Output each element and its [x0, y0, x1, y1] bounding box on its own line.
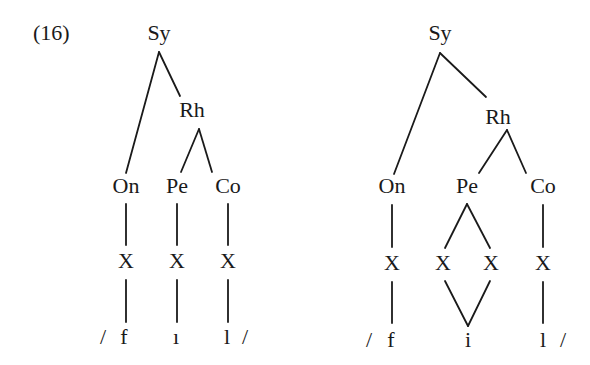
right-x-coda: X: [535, 250, 551, 275]
left-close-slash: /: [242, 324, 249, 349]
right-segment-l: l: [540, 327, 546, 352]
right-tree: Sy Rh On Pe Co X X X X / f i l /: [366, 20, 567, 352]
right-rhyme-node: Rh: [485, 104, 511, 129]
right-x-onset: X: [384, 250, 400, 275]
syllable-structure-diagram: (16) Sy Rh On Pe Co X X X / f ı l / Sy R…: [0, 0, 590, 365]
right-open-slash: /: [366, 327, 373, 352]
right-peak-node: Pe: [456, 173, 478, 198]
edge-sy-rh: [159, 52, 180, 96]
left-syllable-node: Sy: [147, 20, 170, 45]
left-peak-node: Pe: [166, 173, 188, 198]
edge-x2-i: [468, 281, 490, 326]
left-segment-f: f: [120, 324, 128, 349]
edge-sy-rh: [440, 53, 486, 97]
left-coda-node: Co: [215, 173, 241, 198]
edge-rh-co: [507, 130, 526, 173]
right-onset-node: On: [379, 173, 406, 198]
right-segment-f: f: [387, 327, 395, 352]
right-segment-i: i: [465, 327, 471, 352]
left-segment-lax-i: ı: [173, 324, 179, 349]
left-x-coda: X: [220, 248, 236, 273]
edge-rh-pe: [479, 130, 507, 173]
right-syllable-node: Sy: [428, 20, 451, 45]
left-onset-node: On: [113, 173, 140, 198]
right-close-slash: /: [560, 327, 567, 352]
left-open-slash: /: [100, 324, 107, 349]
edge-rh-pe: [181, 129, 199, 172]
right-x-peak-2: X: [483, 250, 499, 275]
edge-rh-co: [199, 129, 212, 172]
edge-pe-x1: [445, 204, 467, 248]
edge-sy-on: [126, 52, 159, 173]
edge-x1-i: [445, 281, 468, 326]
edge-pe-x2: [467, 204, 490, 248]
right-x-peak-1: X: [435, 250, 451, 275]
example-number: (16): [33, 20, 70, 45]
left-tree: Sy Rh On Pe Co X X X / f ı l /: [100, 20, 249, 349]
left-x-onset: X: [118, 248, 134, 273]
edge-sy-on: [394, 53, 440, 174]
left-segment-l: l: [224, 324, 230, 349]
left-x-peak: X: [169, 248, 185, 273]
right-coda-node: Co: [530, 173, 556, 198]
left-rhyme-node: Rh: [179, 97, 205, 122]
